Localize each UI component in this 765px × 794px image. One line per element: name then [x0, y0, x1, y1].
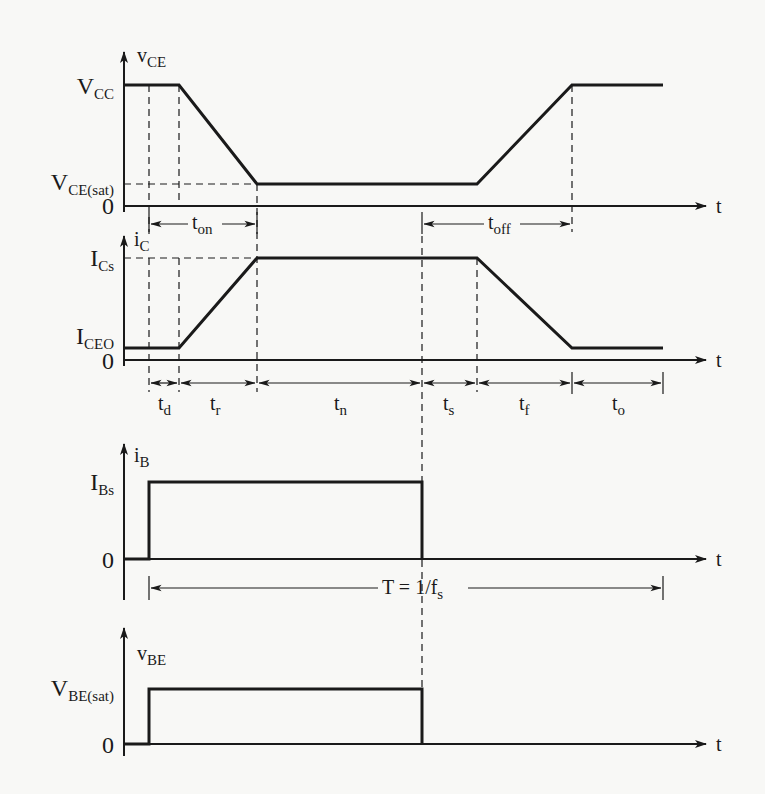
vce-zero-label: 0 — [102, 193, 114, 219]
vbe-time-label: t — [716, 733, 722, 755]
ic-axis-label: iC — [134, 228, 150, 254]
ts-label: ts — [443, 392, 455, 418]
vbe-zero-label: 0 — [102, 732, 114, 758]
to-label: to — [612, 392, 625, 418]
ics-level-label: ICs — [90, 245, 114, 274]
ic-waveform — [124, 258, 663, 348]
vcc-level-label: VCC — [77, 73, 114, 102]
vce-plot: vCE VCC VCE(sat) 0 t — [51, 44, 722, 232]
tn-label: tn — [334, 392, 348, 418]
ibs-level-label: IBs — [90, 469, 114, 498]
ton-label: ton — [192, 211, 213, 237]
switching-intervals: td tr tn ts tf to — [151, 372, 663, 418]
ib-time-label: t — [716, 548, 722, 570]
vbe-plot: vBE VBE(sat) 0 t — [51, 628, 722, 758]
ic-time-label: t — [716, 349, 722, 371]
bjt-switching-diagram: vCE VCC VCE(sat) 0 t ton toff iC ICs ICE… — [0, 0, 765, 794]
top-intervals: ton toff — [149, 211, 570, 237]
td-label: td — [158, 392, 172, 418]
vbe-waveform — [124, 689, 422, 744]
ib-waveform — [124, 482, 422, 559]
ib-axis-label: iB — [134, 444, 150, 470]
ic-plot: iC ICs ICEO 0 t — [76, 184, 722, 745]
tr-label: tr — [210, 392, 221, 418]
diagram-svg: vCE VCC VCE(sat) 0 t ton toff iC ICs ICE… — [0, 0, 765, 794]
tf-label: tf — [519, 392, 530, 418]
toff-label: toff — [488, 211, 511, 237]
ic-zero-label: 0 — [102, 348, 114, 374]
ib-zero-label: 0 — [102, 547, 114, 573]
vbe-axis-label: vBE — [137, 642, 166, 668]
vce-axis-label: vCE — [137, 44, 166, 70]
period-label: T = 1/fs — [382, 576, 443, 602]
vce-waveform — [124, 85, 663, 184]
vbe-sat-level-label: VBE(sat) — [51, 675, 114, 705]
vce-time-label: t — [716, 195, 722, 217]
ib-plot: iB IBs 0 t T = 1/fs — [90, 444, 722, 602]
